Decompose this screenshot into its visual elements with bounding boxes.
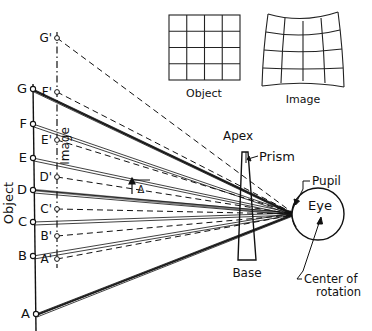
center-of-rotation-label-line1: Center of: [304, 272, 358, 286]
prism-shape: [238, 152, 256, 260]
figure-canvas: Object Image: [0, 0, 372, 331]
apex-label: Apex: [223, 129, 253, 143]
deviation-symbol-label: Δ: [138, 184, 145, 195]
object-point-label-B: B: [18, 248, 27, 263]
base-label: Base: [232, 266, 261, 280]
image-point-label-B: B': [40, 229, 52, 243]
image-point-label-G: G': [39, 31, 52, 45]
pupil-label: Pupil: [312, 174, 341, 188]
object-point-label-C: C: [18, 214, 27, 229]
object-point-label-D: D: [17, 182, 27, 197]
object-point-label-A: A: [21, 306, 30, 321]
object-point-label-G: G: [17, 81, 27, 96]
center-of-rotation-label-line2: rotation: [316, 285, 361, 299]
object-point-label-F: F: [20, 116, 27, 131]
image-grid-label: Image: [286, 93, 321, 106]
image-point-label-D: D': [39, 170, 52, 184]
image-point-label-E: E': [41, 133, 52, 147]
object-grid: [169, 15, 240, 80]
image-point-label-C: C': [40, 202, 52, 216]
object-point-label-E: E: [19, 150, 27, 165]
image-grid: [262, 12, 344, 87]
object-axis-title: Object: [1, 182, 16, 224]
object-grid-label: Object: [186, 87, 223, 100]
image-axis-title: Image: [58, 127, 72, 165]
image-point-label-F: F': [42, 85, 52, 99]
prism-diagram-svg: Object Image: [0, 0, 372, 331]
image-point-label-A: A': [40, 252, 52, 266]
image-ray-dashed: [57, 38, 293, 259]
eye-label: Eye: [308, 198, 332, 213]
prism-label: Prism: [259, 149, 295, 164]
